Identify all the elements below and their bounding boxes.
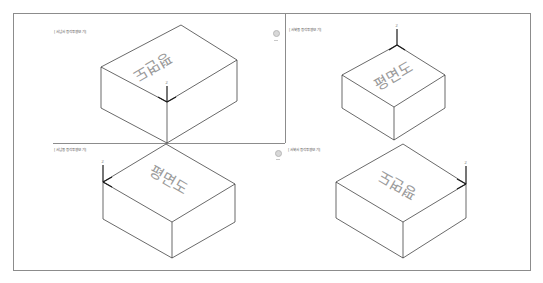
box-bottom-left	[103, 144, 235, 258]
box-bottom-right	[336, 144, 466, 258]
box-top-left	[101, 25, 237, 143]
box-top-right	[342, 45, 445, 140]
svg-text:Z: Z	[396, 24, 399, 28]
svg-text:Z: Z	[102, 160, 105, 164]
isometric-drawing: Z Z Z Z 평면도 평면도 평면도 평면도	[0, 0, 543, 283]
svg-text:Z: Z	[465, 161, 468, 165]
